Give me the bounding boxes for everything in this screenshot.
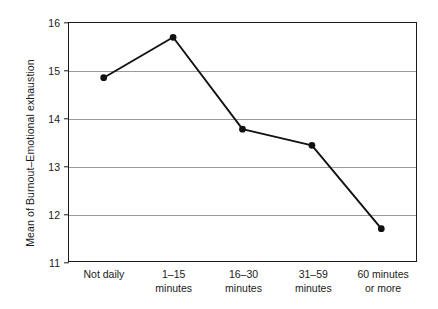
x-tick-label: Not daily [83, 268, 124, 282]
data-point [100, 74, 107, 81]
x-tick-label: 60 minutesor more [357, 268, 408, 295]
y-tick-label: 14 [48, 113, 60, 125]
data-point [239, 126, 246, 133]
series-markers [100, 34, 384, 232]
x-tick-label: 16–30minutes [225, 268, 262, 295]
series-line [104, 37, 382, 228]
data-point [309, 142, 316, 149]
data-point [378, 225, 385, 232]
series-line-chart [69, 23, 416, 261]
chart-figure: Mean of Burnout–Emotional exhaustion 111… [0, 0, 438, 309]
data-point [170, 34, 177, 41]
plot-area: 111213141516 Not daily1–15minutes16–30mi… [68, 22, 417, 262]
y-tick-label: 11 [49, 257, 60, 269]
x-tick-label: 31–59minutes [295, 268, 332, 295]
y-tick-label: 16 [48, 17, 60, 29]
y-axis-title: Mean of Burnout–Emotional exhaustion [22, 22, 38, 284]
y-tick-label: 12 [48, 209, 60, 221]
y-tick-mark [64, 262, 69, 263]
y-tick-label: 13 [48, 161, 60, 173]
x-tick-label: 1–15minutes [155, 268, 192, 295]
y-tick-label: 15 [48, 65, 60, 77]
